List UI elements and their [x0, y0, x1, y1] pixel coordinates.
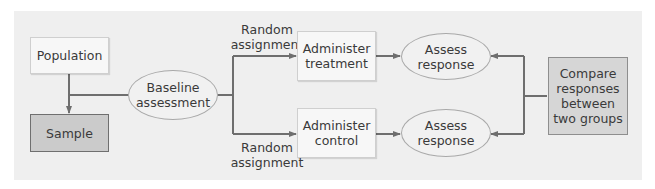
administer-treatment-box: Administer treatment [297, 31, 376, 81]
control-label-line2: control [315, 133, 358, 148]
baseline-label-line2: assessment [136, 95, 210, 110]
control-label-line1: Administer [303, 118, 371, 133]
random-bottom-line2: assignment [230, 155, 304, 170]
administer-control-box: Administer control [297, 108, 376, 158]
assess-bottom-line1: Assess [425, 118, 467, 133]
treatment-label-line1: Administer [303, 41, 371, 56]
compare-line4: two groups [553, 111, 623, 126]
compare-line1: Compare [560, 66, 617, 81]
assess-bottom-line2: response [418, 133, 475, 148]
population-box: Population [30, 37, 109, 74]
compare-line2: responses [556, 81, 619, 96]
random-top-line1: Random [230, 22, 304, 37]
sample-box: Sample [30, 114, 109, 152]
baseline-assessment-ellipse: Baseline assessment [128, 70, 218, 120]
assess-top-line1: Assess [425, 42, 467, 57]
assess-top-line2: response [418, 57, 475, 72]
treatment-label-line2: treatment [305, 56, 368, 71]
random-assignment-top-label: Random assignment [230, 22, 304, 52]
compare-line3: between [561, 96, 615, 111]
sample-label: Sample [46, 126, 93, 141]
population-label: Population [37, 48, 103, 63]
assess-response-bottom-ellipse: Assess response [401, 109, 491, 157]
random-bottom-line1: Random [230, 140, 304, 155]
random-top-line2: assignment [230, 37, 304, 52]
assess-response-top-ellipse: Assess response [401, 33, 491, 80]
baseline-label-line1: Baseline [147, 80, 200, 95]
random-assignment-bottom-label: Random assignment [230, 140, 304, 170]
compare-responses-box: Compare responses between two groups [548, 57, 628, 135]
